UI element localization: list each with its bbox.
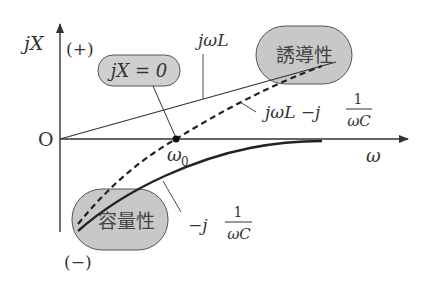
total-label-num: 1 (354, 91, 363, 107)
reactance-diagram: 誘導性 容量性 jX = 0 jX (+) (−) O ω jωL jωL −j… (0, 0, 422, 286)
total-leader (240, 102, 256, 112)
x-axis-label: ω (366, 145, 381, 166)
resonance-dot (173, 136, 180, 143)
capacitive-label-den: ωC (227, 225, 251, 243)
inductive-region-label: 誘導性 (276, 44, 333, 66)
resonance-subscript: 0 (181, 155, 189, 169)
capacitive-region: 容量性 (72, 189, 168, 250)
capacitive-label-num: 1 (234, 204, 243, 220)
resonance-label: ω (167, 144, 182, 165)
capacitive-label-prefix: −j (188, 215, 208, 235)
inductive-region: 誘導性 (256, 26, 352, 84)
total-label-main: jωL −j (261, 102, 321, 122)
resonance-point: ω 0 (167, 136, 189, 170)
capacitive-region-label: 容量性 (98, 210, 155, 232)
inductive-label: jωL (194, 30, 228, 50)
origin-label: O (38, 128, 54, 150)
negative-label: (−) (64, 252, 92, 272)
positive-label: (+) (66, 39, 94, 59)
total-label-den: ωC (347, 112, 371, 130)
y-axis-label: jX (20, 32, 45, 54)
resonance-callout-text: jX = 0 (107, 60, 167, 81)
